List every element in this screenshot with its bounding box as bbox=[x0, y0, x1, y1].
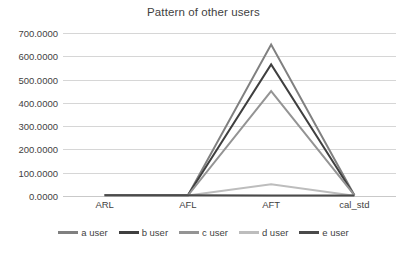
legend-swatch-icon bbox=[299, 231, 319, 234]
legend-swatch-icon bbox=[179, 231, 199, 234]
legend-label: a user bbox=[81, 227, 107, 238]
y-axis-tick-label: 100.0000 bbox=[18, 167, 58, 178]
plot-area bbox=[63, 33, 396, 196]
x-axis-tick-label: ARL bbox=[95, 199, 113, 210]
chart-container: Pattern of other users 0.0000100.0000200… bbox=[0, 0, 407, 255]
legend-item[interactable]: e user bbox=[299, 227, 348, 238]
x-axis-tick-label: AFL bbox=[179, 199, 196, 210]
series-line bbox=[105, 64, 355, 195]
legend-item[interactable]: a user bbox=[58, 227, 107, 238]
legend-item[interactable]: b user bbox=[119, 227, 168, 238]
y-axis-tick-label: 300.0000 bbox=[18, 121, 58, 132]
y-axis-tick-label: 400.0000 bbox=[18, 97, 58, 108]
legend-label: e user bbox=[322, 227, 348, 238]
legend-label: c user bbox=[202, 227, 228, 238]
y-axis-tick-label: 0.0000 bbox=[29, 191, 58, 202]
x-axis-tick-label: AFT bbox=[262, 199, 280, 210]
chart-legend: a userb userc userd usere user bbox=[0, 227, 407, 238]
legend-item[interactable]: c user bbox=[179, 227, 228, 238]
series-line bbox=[105, 91, 355, 195]
legend-swatch-icon bbox=[119, 231, 139, 234]
legend-label: d user bbox=[262, 227, 288, 238]
legend-item[interactable]: d user bbox=[239, 227, 288, 238]
x-axis-tick-label: cal_std bbox=[339, 199, 369, 210]
x-axis-labels: ARLAFLAFTcal_std bbox=[63, 199, 396, 215]
series-lines bbox=[63, 33, 396, 196]
chart-title: Pattern of other users bbox=[0, 6, 407, 18]
series-line bbox=[105, 45, 355, 196]
y-axis-tick-label: 700.0000 bbox=[18, 28, 58, 39]
legend-swatch-icon bbox=[58, 231, 78, 234]
series-line bbox=[105, 184, 355, 195]
y-axis-labels: 0.0000100.0000200.0000300.0000400.000050… bbox=[0, 33, 58, 196]
legend-label: b user bbox=[142, 227, 168, 238]
legend-swatch-icon bbox=[239, 231, 259, 234]
y-axis-tick-label: 200.0000 bbox=[18, 144, 58, 155]
y-axis-tick-label: 500.0000 bbox=[18, 74, 58, 85]
y-axis-tick-label: 600.0000 bbox=[18, 51, 58, 62]
